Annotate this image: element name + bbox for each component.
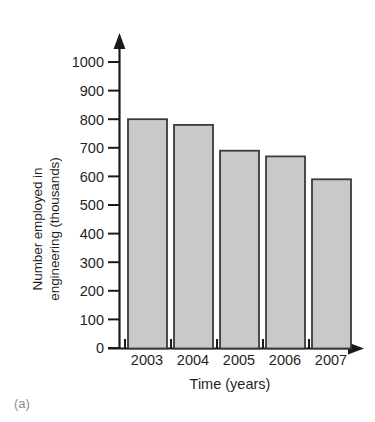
y-axis-ticks xyxy=(108,62,120,348)
x-tick-label-2004: 2004 xyxy=(170,352,216,368)
x-tick-label-2007: 2007 xyxy=(308,352,354,368)
bar-chart-figure: Number employed in engineering (thousand… xyxy=(0,0,375,422)
panel-label: (a) xyxy=(14,396,30,411)
bar-2003 xyxy=(128,119,167,348)
x-tick-label-2006: 2006 xyxy=(262,352,308,368)
bar-2004 xyxy=(174,125,213,349)
y-axis xyxy=(114,33,126,349)
x-tick-label-2005: 2005 xyxy=(216,352,262,368)
bar-2005 xyxy=(220,151,259,349)
bar-series xyxy=(128,119,351,348)
x-axis-title: Time (years) xyxy=(110,376,350,392)
bar-2007 xyxy=(312,179,351,348)
x-tick-label-2003: 2003 xyxy=(124,352,170,368)
bar-2006 xyxy=(266,156,305,348)
